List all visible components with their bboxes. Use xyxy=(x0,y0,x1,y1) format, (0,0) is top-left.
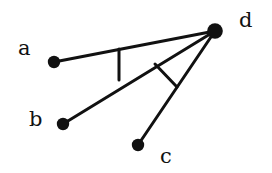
perpendicular-marks-group xyxy=(119,49,177,87)
geometry-diagram: a b c d xyxy=(0,0,272,173)
perpendicular-mark-bd-cd xyxy=(155,64,177,87)
vertex-label-c: c xyxy=(160,146,172,167)
edges-group xyxy=(54,31,215,145)
vertex-dot-a xyxy=(48,56,60,68)
vertex-dot-d xyxy=(207,23,223,39)
diagram-canvas xyxy=(0,0,272,173)
vertex-dot-b xyxy=(57,118,69,130)
vertex-dot-c xyxy=(132,139,144,151)
vertex-label-a: a xyxy=(18,38,31,59)
vertex-label-d: d xyxy=(239,10,252,31)
vertex-label-b: b xyxy=(29,109,42,130)
